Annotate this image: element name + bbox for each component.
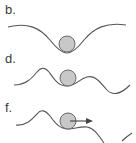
well-curve-f-tail — [122, 133, 132, 141]
ball-d — [60, 70, 76, 86]
panel-f-diagram — [16, 111, 132, 143]
well-curve-f — [16, 111, 104, 143]
arrow-right-icon — [86, 118, 93, 124]
panel-b-diagram — [8, 24, 126, 53]
ball-b — [59, 36, 75, 52]
panel-d-diagram — [14, 68, 130, 93]
energy-landscape-figure — [0, 0, 136, 143]
